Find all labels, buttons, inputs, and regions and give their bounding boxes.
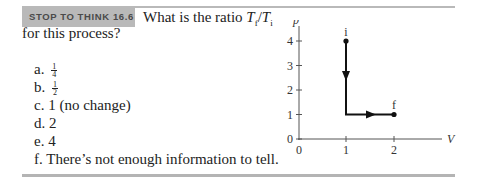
question-line-1: What is the ratio Tf/Ti	[143, 8, 273, 32]
choice-text: There’s not enough information to tell.	[46, 151, 278, 167]
y-tick-0: 0	[287, 132, 293, 146]
choice-a[interactable]: a. 14	[34, 60, 279, 78]
choice-d[interactable]: d. 2	[34, 114, 279, 132]
choice-letter: f.	[34, 151, 43, 167]
x-tick-0: 0	[296, 143, 302, 157]
fraction-denominator: 2	[52, 89, 58, 96]
arrow-down-icon	[342, 71, 350, 81]
fraction-one-half: 12	[52, 81, 58, 96]
fraction-denominator: 4	[51, 71, 57, 78]
y-tick-3: 3	[287, 59, 293, 73]
choice-b[interactable]: b. 12	[34, 78, 279, 96]
point-i	[343, 38, 348, 43]
process-path	[346, 41, 394, 115]
choice-letter: c.	[34, 97, 44, 113]
temp-initial-var: T	[262, 9, 270, 25]
arrow-right-icon	[366, 111, 376, 119]
temp-final-var: T	[246, 9, 254, 25]
x-axis-label: V	[447, 132, 456, 146]
choice-c[interactable]: c. 1 (no change)	[34, 96, 279, 114]
choice-letter: d.	[34, 115, 45, 131]
question-line-2: for this process?	[22, 24, 120, 42]
y-axis-label: p	[292, 20, 299, 27]
point-f	[391, 112, 396, 117]
choice-letter: a.	[34, 61, 44, 77]
x-tick-labels: 0 1 2	[296, 143, 397, 157]
y-tick-labels: 0 1 2 3 4	[287, 34, 293, 146]
choice-f[interactable]: f. There’s not enough information to tel…	[34, 150, 279, 168]
point-f-label: f	[392, 98, 396, 112]
x-tick-2: 2	[391, 143, 397, 157]
point-i-label: i	[344, 25, 348, 39]
choice-text: 2	[49, 115, 57, 131]
y-tick-1: 1	[287, 108, 293, 122]
choice-letter: e.	[34, 133, 44, 149]
fraction-one-quarter: 14	[51, 63, 57, 78]
choice-text: 1 (no change)	[48, 97, 130, 113]
question-text: What is the ratio	[143, 9, 246, 25]
x-tick-1: 1	[343, 143, 349, 157]
choice-e[interactable]: e. 4	[34, 132, 279, 150]
bottom-rule	[22, 174, 455, 177]
answer-choices: a. 14 b. 12 c. 1 (no change) d. 2 e. 4 f…	[34, 60, 279, 168]
choice-letter: b.	[34, 79, 45, 95]
choice-text: 4	[48, 133, 56, 149]
y-tick-2: 2	[287, 83, 293, 97]
y-tick-4: 4	[287, 34, 293, 48]
pv-diagram: 0 1 2 3 4 0 1 2 p V i f	[270, 20, 481, 160]
